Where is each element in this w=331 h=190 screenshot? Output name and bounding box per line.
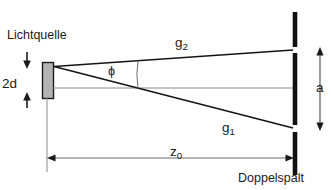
light-source-block [43,63,54,99]
double-slit-label: Doppelspalt [238,172,304,185]
slit-separation-label: a [316,81,324,95]
ray-g2-label-base: g [175,35,183,50]
angle-arc [137,61,138,88]
light-source-arrow-up-icon [23,92,31,108]
ray-g1-label: g1 [222,121,235,136]
light-source-arrow-down-icon [23,52,31,69]
light-source-label: Lichtquelle [7,29,67,42]
source-width-label: 2d [2,77,17,91]
distance-label-base: z [170,144,177,159]
ray-g2-label-sub: 2 [183,41,188,52]
distance-label-sub: 0 [177,150,182,161]
angle-phi-label: ϕ [108,65,115,78]
ray-g1-label-base: g [222,120,230,135]
distance-label: z0 [170,145,182,160]
ray-g2-label: g2 [175,36,188,51]
ray-g2-line [54,50,293,67]
ray-g1-label-sub: 1 [230,126,235,137]
ray-g1-line [54,67,293,129]
diagram-canvas: Lichtquelle 2d ϕ g2 g1 a z0 Doppelspalt [0,0,331,190]
